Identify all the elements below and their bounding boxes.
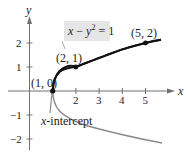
x-tick-label-3: 3: [96, 94, 102, 106]
upper-branch-curve: [53, 40, 161, 91]
x-intercept-leader-line: [50, 93, 52, 113]
equation-label-box: x − y2 = 1: [62, 21, 114, 49]
point-label-5-2: (5, 2): [131, 26, 157, 40]
y-axis-label: y: [25, 3, 32, 17]
equation-text: x − y2 = 1: [67, 23, 114, 38]
point-label-1-0: (1, 0): [31, 76, 57, 90]
point-5-2: [143, 41, 148, 46]
point-2-1: [74, 65, 79, 70]
y-tick-label-2: 2: [16, 37, 22, 49]
x-intercept-label: x-intercept: [40, 114, 93, 128]
y-tick-label-1: 1: [16, 61, 22, 73]
x-tick-label-2: 2: [73, 94, 79, 106]
x-tick-label-5: 5: [143, 94, 149, 106]
y-axis-arrow-icon: [27, 16, 32, 24]
y-tick-label-minus-2: −2: [10, 133, 22, 145]
x-tick-label-4: 4: [119, 94, 125, 106]
equation-leader-line: [62, 41, 65, 49]
hyperbola-chart: x y 2 3 4 5 2 1 −1 −2 (1, 0) (2, 1) (5, …: [0, 0, 187, 154]
x-axis-label: x: [177, 84, 184, 98]
x-axis-arrow-icon: [167, 89, 175, 94]
y-tick-label-minus-1: −1: [10, 109, 22, 121]
point-label-2-1: (2, 1): [56, 51, 82, 65]
